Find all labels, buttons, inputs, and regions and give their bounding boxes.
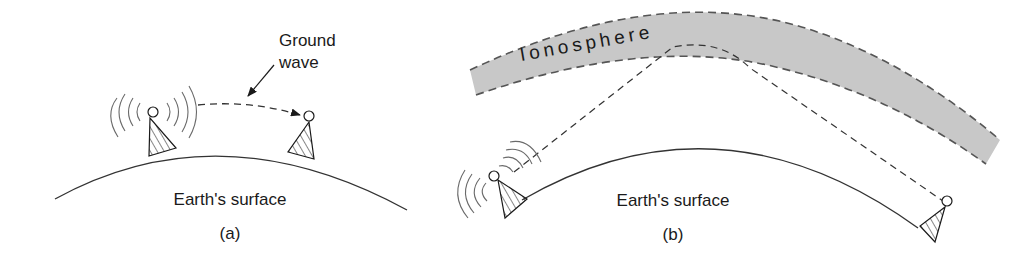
panel-a: Ground wave Earth's surface (a) bbox=[55, 31, 407, 243]
panel-b: Ionosphere Earth's surface (b) bbox=[458, 12, 1000, 244]
ground-wave-pointer bbox=[248, 65, 274, 96]
ground-wave-path bbox=[198, 104, 300, 115]
earth-surface-label-a: Earth's surface bbox=[174, 190, 287, 209]
caption-a: (a) bbox=[220, 224, 241, 243]
ground-wave-label-line2: wave bbox=[278, 53, 319, 72]
earth-surface-label-b: Earth's surface bbox=[617, 191, 730, 210]
radio-propagation-diagram: Ground wave Earth's surface (a) Ionosphe… bbox=[0, 0, 1022, 259]
caption-b: (b) bbox=[663, 225, 684, 244]
ionosphere-layer bbox=[470, 12, 1000, 164]
receiver-tower-icon bbox=[920, 196, 952, 242]
ground-wave-label-line1: Ground bbox=[279, 31, 336, 50]
receiver-tower-icon bbox=[288, 111, 314, 159]
transmitter-tower-icon bbox=[489, 171, 527, 218]
earth-surface-arc-b bbox=[522, 149, 918, 228]
transmitter-tower-icon bbox=[148, 107, 176, 156]
radio-waves-icon bbox=[458, 141, 541, 218]
